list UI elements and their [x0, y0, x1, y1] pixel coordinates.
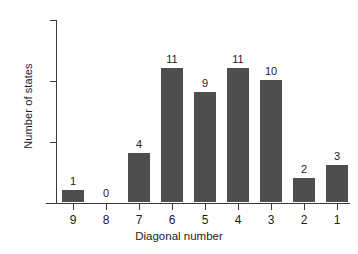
- bar-value-label: 2: [289, 164, 319, 175]
- x-axis-tick: [337, 204, 338, 210]
- x-axis-category-label: 4: [223, 214, 253, 226]
- bar-value-label: 4: [124, 139, 154, 150]
- bar: [62, 190, 84, 202]
- x-axis-category-label: 7: [124, 214, 154, 226]
- y-axis-tick: [50, 20, 56, 21]
- bar: [227, 68, 249, 202]
- x-axis-category-label: 1: [322, 214, 352, 226]
- bar-value-label: 11: [223, 54, 253, 65]
- bar-value-label: 3: [322, 151, 352, 162]
- x-axis-category-label: 6: [157, 214, 187, 226]
- x-axis-category-label: 5: [190, 214, 220, 226]
- bar: [128, 153, 150, 202]
- x-axis-tick: [172, 204, 173, 210]
- bar: [293, 178, 315, 202]
- bar-value-label: 0: [91, 188, 121, 199]
- x-axis-category-label: 3: [256, 214, 286, 226]
- x-axis-tick: [271, 204, 272, 210]
- x-axis-category-label: 8: [91, 214, 121, 226]
- x-axis-tick: [304, 204, 305, 210]
- bar: [161, 68, 183, 202]
- bar-value-label: 10: [256, 66, 286, 77]
- y-axis-tick: [50, 81, 56, 82]
- x-axis-tick: [139, 204, 140, 210]
- bar-value-label: 11: [157, 54, 187, 65]
- x-axis-tick: [205, 204, 206, 210]
- bar: [194, 92, 216, 202]
- bar-value-label: 1: [58, 176, 88, 187]
- y-axis-tick: [50, 203, 56, 204]
- y-axis-title: Number of states: [22, 36, 34, 176]
- x-axis-category-label: 2: [289, 214, 319, 226]
- bar: [326, 165, 348, 202]
- bar: [260, 80, 282, 202]
- x-axis-tick: [106, 204, 107, 210]
- bar-value-label: 9: [190, 78, 220, 89]
- bar-chart: Number of states 051015 1908471169511410…: [0, 0, 358, 254]
- x-axis-tick: [73, 204, 74, 210]
- x-axis-category-label: 9: [58, 214, 88, 226]
- x-axis-title: Diagonal number: [0, 230, 358, 242]
- x-axis-tick: [238, 204, 239, 210]
- y-axis-line: [56, 20, 57, 204]
- y-axis-tick: [50, 142, 56, 143]
- plot-area: 190847116951141032231: [56, 20, 350, 203]
